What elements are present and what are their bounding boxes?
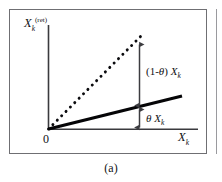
origin-label: 0 <box>43 132 49 147</box>
y-axis-label-base: X <box>24 16 32 30</box>
x-axis-label-sub: k <box>186 138 189 147</box>
y-axis-label: Xk(ret) <box>24 17 47 32</box>
annot-lower-var: X <box>154 112 161 124</box>
y-axis-label-sub: k <box>32 24 35 33</box>
y-axis-label-sup: (ret) <box>35 16 47 24</box>
annot-upper-prefix: (1- <box>146 65 159 77</box>
x-axis-label-base: X <box>178 130 186 144</box>
annotation-one-minus-theta-xk: (1-θ) Xk <box>146 66 181 80</box>
annot-upper-sub: k <box>177 71 180 80</box>
figure-caption: (a) <box>0 161 222 176</box>
dotted-reference-line <box>49 33 145 129</box>
figure-root: Xk(ret) Xk 0 (1-θ) Xk θ Xk (a) <box>0 0 222 182</box>
annotation-theta-xk: θ Xk <box>146 113 164 127</box>
x-axis-label: Xk <box>178 131 189 146</box>
annot-lower-sub: k <box>161 118 164 127</box>
